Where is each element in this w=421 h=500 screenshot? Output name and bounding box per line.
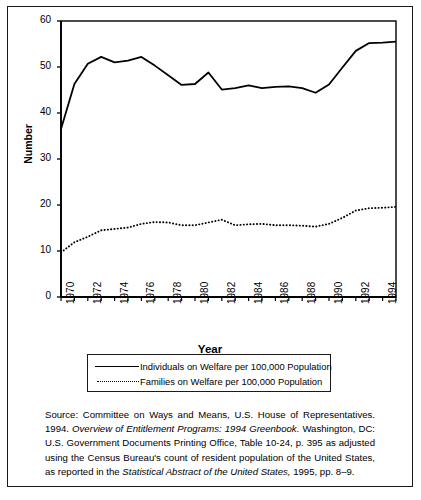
series-line-families (61, 207, 396, 253)
chart-area: 0102030405060 19701972197419761978198019… (0, 0, 421, 345)
x-tick-1972: 1972 (92, 282, 103, 304)
y-tick-50: 50 (25, 60, 51, 71)
y-tick-20: 20 (25, 198, 51, 209)
legend-item-families: Families on Welfare per 100,000 Populati… (95, 376, 322, 387)
legend-solid-line-icon (95, 362, 139, 371)
y-tick-60: 60 (25, 14, 51, 25)
source-line-1: Source: Committee on Ways and Means, U.S… (45, 409, 298, 420)
source-line-2-italic: Overview of Entitlement Programs: 1994 (72, 423, 246, 434)
x-tick-1978: 1978 (172, 282, 183, 304)
x-tick-1970: 1970 (65, 282, 76, 304)
y-axis-title: Number (22, 104, 34, 184)
x-tick-1984: 1984 (253, 282, 264, 304)
x-tick-1994: 1994 (387, 282, 398, 304)
x-tick-1982: 1982 (226, 282, 237, 304)
legend-label-individuals: Individuals on Welfare per 100,000 Popul… (140, 361, 332, 372)
x-tick-1974: 1974 (119, 282, 130, 304)
source-line-3-italic: Greenbook. (249, 423, 299, 434)
chart-legend: Individuals on Welfare per 100,000 Popul… (87, 354, 331, 392)
legend-dotted-line-icon (95, 377, 139, 386)
x-tick-1980: 1980 (199, 282, 210, 304)
y-tick-0: 0 (25, 290, 51, 301)
x-tick-1976: 1976 (145, 282, 156, 304)
x-tick-1992: 1992 (360, 282, 371, 304)
source-line-6-italic: Statistical Abstract of the United State… (122, 466, 290, 477)
series-line-individuals (61, 42, 396, 129)
legend-label-families: Families on Welfare per 100,000 Populati… (140, 376, 322, 387)
y-tick-10: 10 (25, 244, 51, 255)
x-tick-1986: 1986 (279, 282, 290, 304)
source-line-6-plain: 1995, pp. 8–9. (291, 466, 355, 477)
chart-series (61, 42, 396, 253)
legend-item-individuals: Individuals on Welfare per 100,000 Popul… (95, 361, 332, 372)
x-tick-1990: 1990 (333, 282, 344, 304)
source-citation: Source: Committee on Ways and Means, U.S… (45, 408, 375, 479)
figure-panel: 0102030405060 19701972197419761978198019… (0, 0, 421, 500)
x-tick-1988: 1988 (306, 282, 317, 304)
line-chart-svg (0, 0, 421, 345)
